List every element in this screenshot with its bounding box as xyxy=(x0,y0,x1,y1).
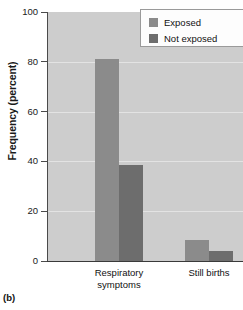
legend-item-exposed[interactable]: Exposed xyxy=(149,15,243,30)
y-tick-label-0: 0 xyxy=(0,255,38,266)
bar-not-exposed-group-0 xyxy=(119,165,143,261)
x-axis-line xyxy=(47,261,243,262)
y-tick-0 xyxy=(41,261,47,262)
y-tick-label-40: 40 xyxy=(0,155,38,166)
y-tick-label-80: 80 xyxy=(0,56,38,67)
legend-swatch-exposed-icon xyxy=(149,18,158,27)
gridline-20 xyxy=(48,211,243,212)
x-category-label-1: Still births xyxy=(154,267,243,279)
y-tick-label-20: 20 xyxy=(0,205,38,216)
legend-swatch-not-exposed-icon xyxy=(149,34,158,43)
y-tick-label-60: 60 xyxy=(0,106,38,117)
bar-not-exposed-group-1 xyxy=(209,251,233,261)
legend-label-not-exposed: Not exposed xyxy=(164,33,217,44)
legend-item-not-exposed[interactable]: Not exposed xyxy=(149,31,243,46)
y-tick-40 xyxy=(41,161,47,162)
bar-exposed-group-0 xyxy=(95,59,119,261)
gridline-80 xyxy=(48,62,243,63)
figure-panel-b: Frequency (percent) 020406080100 Respira… xyxy=(0,0,243,310)
legend-label-exposed: Exposed xyxy=(164,17,201,28)
y-tick-label-100: 100 xyxy=(0,6,38,17)
plot-area xyxy=(48,12,243,261)
y-tick-100 xyxy=(41,12,47,13)
y-tick-20 xyxy=(41,211,47,212)
y-tick-80 xyxy=(41,61,47,62)
bar-exposed-group-1 xyxy=(185,240,209,261)
gridline-40 xyxy=(48,161,243,162)
y-tick-60 xyxy=(41,111,47,112)
chart-legend: Exposed Not exposed xyxy=(140,9,243,47)
panel-caption: (b) xyxy=(3,292,15,303)
gridline-60 xyxy=(48,112,243,113)
